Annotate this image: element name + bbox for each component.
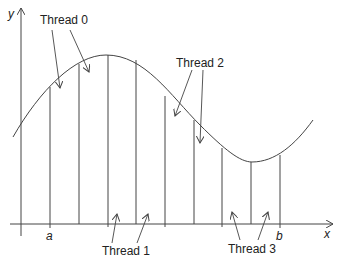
thread-2-arrow-2 bbox=[200, 70, 203, 143]
thread-0-label: Thread 0 bbox=[40, 13, 88, 27]
thread-3-arrow-1 bbox=[232, 212, 240, 240]
upper-bound-label: b bbox=[276, 229, 283, 243]
thread-3-arrow-2 bbox=[258, 212, 268, 240]
thread-1-arrow-1 bbox=[112, 214, 117, 243]
x-axis-label: x bbox=[323, 227, 331, 241]
trapezoid-partition-diagram: y x a b Thread 0 Thread 1 Thread 2 Threa… bbox=[0, 0, 340, 265]
thread-1-arrow-2 bbox=[137, 214, 148, 243]
thread-0-arrow-1 bbox=[52, 30, 60, 88]
y-axis-label: y bbox=[7, 7, 15, 21]
thread-2-arrow-1 bbox=[175, 70, 192, 116]
thread-1-label: Thread 1 bbox=[102, 244, 150, 258]
partition-lines bbox=[50, 55, 280, 228]
thread-arrows bbox=[52, 30, 268, 243]
thread-3-label: Thread 3 bbox=[228, 242, 276, 256]
lower-bound-label: a bbox=[46, 229, 53, 243]
thread-2-label: Thread 2 bbox=[176, 56, 224, 70]
axes bbox=[10, 8, 333, 236]
